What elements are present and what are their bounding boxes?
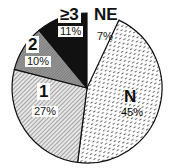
slice-label-1: 1 [37,83,50,100]
pie-chart [0,0,171,168]
slice-label-n: N [124,88,136,105]
slice-pct-2: 10% [25,56,51,67]
slice-label-ge3: ≥3 [58,6,81,23]
slice-pct-n: 45% [121,107,143,118]
slice-pct-ne: 7% [97,31,113,42]
slice-pct-ge3: 11% [58,26,83,37]
slice-label-2: 2 [26,36,39,53]
slice-pct-1: 27% [32,106,58,117]
slice-label-ne: NE [94,6,118,23]
